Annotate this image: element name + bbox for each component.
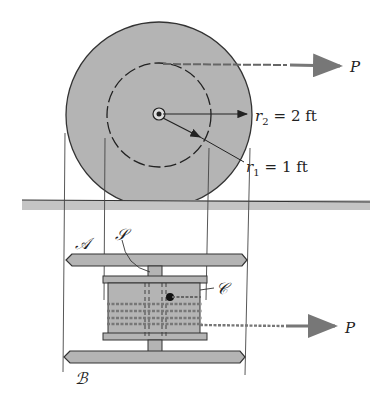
hub-C-body [108,283,200,335]
r2-label: r2= 2 ft [255,107,317,127]
diagram-canvas: P r2= 2 ft r1= 1 ft [0,0,386,397]
axle-center-dot [157,112,162,117]
hub-flange-top [103,276,207,283]
wheel-A [66,254,247,266]
force-label-bottom: P [344,319,356,337]
hub-flange-bottom [103,333,207,340]
shaft-S-label: 𝒮 [115,225,132,244]
hub-C-leader [200,288,214,290]
r1-label: r1= 1 ft [246,158,308,178]
top-view [64,240,335,363]
cable-out [200,325,285,326]
wheel-A-label: 𝒜 [75,234,95,253]
wheel-B-label: ℬ [75,369,89,388]
force-arrow-top [290,65,340,66]
shaft-lower [148,340,162,352]
ground [22,200,370,210]
hub-C-label: 𝒞 [216,279,232,298]
force-label-top: P [349,58,361,76]
wheel-B [64,351,245,363]
